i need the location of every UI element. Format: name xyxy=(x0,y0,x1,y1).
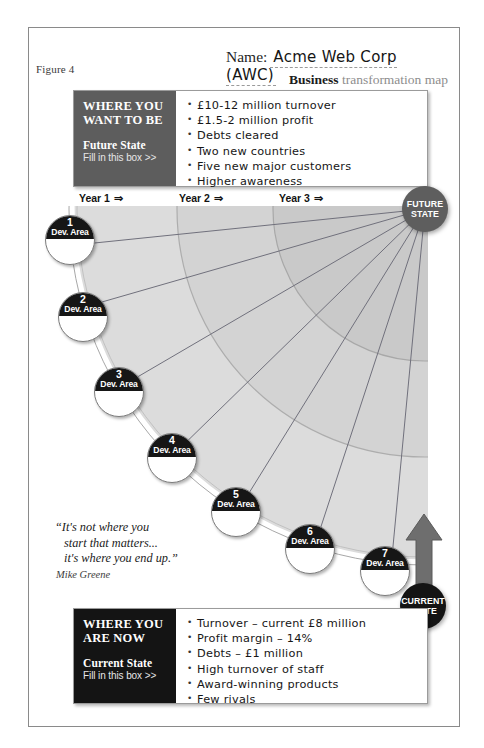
current-state-list: Turnover – current £8 million Profit mar… xyxy=(176,609,427,703)
dev-area-node-6[interactable]: 6 Dev. Area xyxy=(285,524,335,574)
list-item[interactable]: Award-winning products xyxy=(187,677,421,692)
list-item[interactable]: Debts – £1 million xyxy=(187,646,421,661)
quote-line-2: start that matters... xyxy=(55,536,215,552)
name-label: Name: xyxy=(226,48,267,65)
year-label-3: Year 3⇒ xyxy=(279,192,323,205)
name-row: Name:Acme Web Corp (AWC) xyxy=(226,48,448,70)
future-state-box: WHERE YOU WANT TO BE Future State Fill i… xyxy=(73,90,428,187)
list-item[interactable]: Higher awareness xyxy=(187,174,421,189)
page-subtitle: Business transformation map xyxy=(226,72,448,88)
dev-area-label: Dev. Area xyxy=(212,500,260,510)
dev-area-cap: 5 Dev. Area xyxy=(212,488,260,511)
dev-area-node-4[interactable]: 4 Dev. Area xyxy=(147,433,197,483)
current-state-heading: WHERE YOU ARE NOW xyxy=(83,618,176,645)
list-item[interactable]: High turnover of staff xyxy=(187,662,421,677)
dev-area-node-7[interactable]: 7 Dev. Area xyxy=(360,546,410,596)
dev-area-node-5[interactable]: 5 Dev. Area xyxy=(211,487,261,537)
dev-area-label: Dev. Area xyxy=(148,446,196,456)
figure-label: Figure 4 xyxy=(36,63,75,75)
list-item[interactable]: £1.5-2 million profit xyxy=(187,113,421,128)
future-state-panel: WHERE YOU WANT TO BE Future State Fill i… xyxy=(74,91,176,186)
dev-area-node-3[interactable]: 3 Dev. Area xyxy=(94,367,144,417)
subtitle-light: transformation map xyxy=(342,72,448,87)
dev-area-cap: 6 Dev. Area xyxy=(286,525,334,548)
arrow-right-icon: ⇒ xyxy=(214,192,223,204)
dev-area-cap: 2 Dev. Area xyxy=(59,293,107,316)
list-item[interactable]: Five new major customers xyxy=(187,159,421,174)
current-state-subheading: Current State xyxy=(83,657,176,669)
list-item[interactable]: Two new countries xyxy=(187,144,421,159)
future-state-list: £10-12 million turnover £1.5-2 million p… xyxy=(176,91,427,186)
arrow-right-icon: ⇒ xyxy=(314,192,323,204)
list-item[interactable]: Turnover – current £8 million xyxy=(187,616,421,631)
dev-area-label: Dev. Area xyxy=(286,537,334,547)
list-item[interactable]: Profit margin – 14% xyxy=(187,631,421,646)
dev-area-label: Dev. Area xyxy=(361,559,409,569)
dev-area-cap: 1 Dev. Area xyxy=(46,216,94,239)
list-item[interactable]: £10-12 million turnover xyxy=(187,98,421,113)
future-state-node-label: FUTURESTATE xyxy=(407,199,443,220)
arrow-right-icon: ⇒ xyxy=(114,192,123,204)
subtitle-bold: Business xyxy=(289,72,339,87)
dev-area-label: Dev. Area xyxy=(46,228,94,238)
current-state-fill-hint: Fill in this box >> xyxy=(83,670,176,681)
dev-area-node-1[interactable]: 1 Dev. Area xyxy=(45,215,95,265)
year-label-1: Year 1⇒ xyxy=(79,192,123,205)
dev-area-label: Dev. Area xyxy=(95,380,143,390)
list-item[interactable]: Few rivals xyxy=(187,692,421,707)
dev-area-label: Dev. Area xyxy=(59,305,107,315)
current-state-panel: WHERE YOU ARE NOW Current State Fill in … xyxy=(74,609,176,703)
future-state-fill-hint: Fill in this box >> xyxy=(83,152,176,163)
quote-author: Mike Greene xyxy=(56,569,110,580)
quote-line-3: it's where you end up.” xyxy=(55,551,215,567)
current-state-box: WHERE YOU ARE NOW Current State Fill in … xyxy=(73,608,428,704)
dev-area-node-2[interactable]: 2 Dev. Area xyxy=(58,292,108,342)
dev-area-cap: 3 Dev. Area xyxy=(95,368,143,391)
quote-line-1: “It's not where you xyxy=(55,520,215,536)
future-state-heading: WHERE YOU WANT TO BE xyxy=(83,100,176,127)
dev-area-cap: 7 Dev. Area xyxy=(361,547,409,570)
future-state-node[interactable]: FUTURESTATE xyxy=(402,186,448,232)
quote-text: “It's not where you start that matters..… xyxy=(55,520,215,567)
list-item[interactable]: Debts cleared xyxy=(187,128,421,143)
future-state-subheading: Future State xyxy=(83,139,176,151)
dev-area-cap: 4 Dev. Area xyxy=(148,434,196,457)
year-label-2: Year 2⇒ xyxy=(179,192,223,205)
